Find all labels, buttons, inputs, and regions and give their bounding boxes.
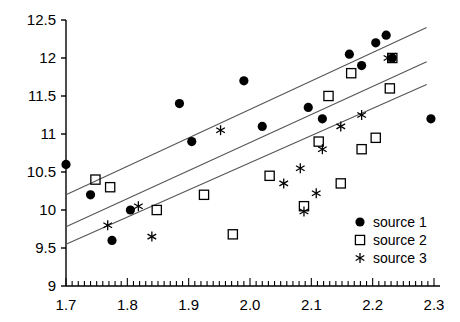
legend-marker [355, 217, 364, 226]
data-point [426, 114, 435, 123]
data-point [175, 99, 184, 108]
legend-label: source 3 [373, 250, 427, 266]
y-tick-label: 11 [40, 125, 56, 142]
data-point [103, 220, 112, 230]
data-point [134, 201, 143, 211]
y-tick-label: 10 [39, 201, 56, 218]
legend-label: source 2 [373, 232, 427, 248]
data-point [357, 61, 366, 70]
data-point [107, 236, 116, 245]
data-point [279, 178, 288, 188]
plot-canvas: 99.51010.51111.51212.51.71.81.92.02.12.2… [0, 0, 460, 322]
scatter-plot: 99.51010.51111.51212.51.71.81.92.02.12.2… [0, 0, 460, 322]
data-point [312, 188, 321, 198]
data-point [345, 50, 354, 59]
data-point [86, 190, 95, 199]
legend-item-source-1: source 1 [355, 214, 427, 230]
data-point [258, 122, 267, 131]
data-point [239, 76, 248, 85]
legend: source 1source 2source 3 [355, 214, 427, 266]
y-tick-label: 9.5 [35, 239, 56, 256]
x-tick-label: 2.2 [362, 296, 383, 313]
data-point [382, 31, 391, 40]
data-point [336, 179, 345, 188]
y-tick-label: 12.5 [27, 11, 56, 28]
x-tick-label: 2.3 [424, 296, 445, 313]
series-source-1 [61, 31, 435, 245]
legend-marker [356, 253, 365, 263]
x-tick-label: 1.8 [117, 296, 138, 313]
y-tick-label: 11.5 [28, 87, 56, 104]
x-tick-label: 1.7 [56, 296, 77, 313]
y-tick-label: 12 [39, 49, 56, 66]
data-point [347, 69, 356, 78]
legend-item-source-3: source 3 [356, 250, 427, 266]
data-point [152, 205, 161, 214]
data-point [324, 91, 333, 100]
legend-label: source 1 [373, 214, 427, 230]
trend-lines [66, 28, 427, 245]
data-point [61, 160, 70, 169]
x-tick-label: 2.1 [301, 296, 322, 313]
legend-item-source-2: source 2 [355, 232, 427, 248]
data-points [61, 31, 435, 245]
data-point [300, 207, 309, 217]
data-point [296, 163, 305, 173]
y-tick-label: 9 [48, 277, 56, 294]
data-point [385, 84, 394, 93]
data-point [216, 125, 225, 135]
data-point [199, 190, 208, 199]
legend-marker [355, 235, 364, 244]
data-point [148, 232, 157, 242]
data-point [265, 171, 274, 180]
data-point [126, 205, 135, 214]
x-tick-label: 2.0 [240, 296, 261, 313]
data-point [318, 114, 327, 123]
data-point [371, 133, 380, 142]
trend-middle [66, 62, 427, 227]
data-point [228, 230, 237, 239]
data-point [371, 38, 380, 47]
data-point [357, 145, 366, 154]
trend-upper [66, 28, 427, 195]
data-point [336, 121, 345, 131]
axis-tick-labels: 99.51010.51111.51212.51.71.81.92.02.12.2… [27, 11, 445, 313]
data-point [304, 103, 313, 112]
x-tick-label: 1.9 [178, 296, 199, 313]
data-point [106, 183, 115, 192]
y-tick-label: 10.5 [27, 163, 56, 180]
data-point [187, 137, 196, 146]
